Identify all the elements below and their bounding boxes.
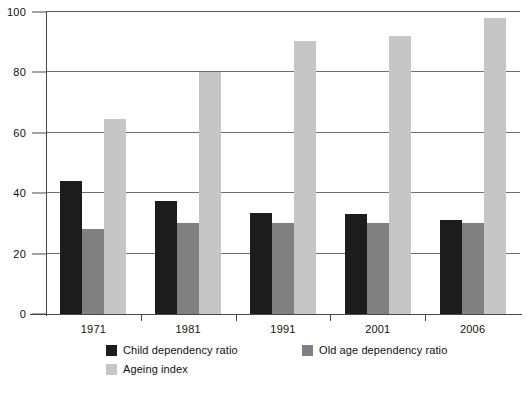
y-tick-mark-40 — [32, 193, 46, 194]
bar-2006-old-age-dependency-ratio — [462, 223, 484, 314]
y-tick-mark-60 — [32, 132, 46, 133]
x-tick-label-1981: 1981 — [176, 323, 201, 335]
bars-layer — [46, 12, 520, 314]
legend-label-child-dependency-ratio: Child dependency ratio — [123, 344, 238, 356]
bar-1991-ageing-index — [294, 41, 316, 314]
y-tick-label-20: 20 — [13, 248, 26, 260]
bar-1971-child-dependency-ratio — [60, 181, 82, 314]
legend-swatch-icon-child-dependency-ratio — [106, 345, 117, 356]
x-axis-spine — [30, 314, 522, 315]
bar-1971-ageing-index — [104, 119, 126, 314]
x-tick-mark-3 — [330, 314, 331, 321]
x-tick-label-1971: 1971 — [81, 323, 106, 335]
bar-1981-child-dependency-ratio — [155, 201, 177, 314]
legend-label-ageing-index: Ageing index — [123, 363, 188, 375]
legend-item-ageing-index[interactable]: Ageing index — [106, 363, 188, 375]
legend-item-child-dependency-ratio[interactable]: Child dependency ratio — [106, 344, 238, 356]
bar-1991-child-dependency-ratio — [250, 213, 272, 314]
bar-1981-old-age-dependency-ratio — [177, 223, 199, 314]
x-tick-mark-2 — [236, 314, 237, 321]
y-axis: 020406080100 — [0, 0, 46, 394]
bar-2006-child-dependency-ratio — [440, 220, 462, 314]
x-tick-mark-4 — [425, 314, 426, 321]
chart-legend: Child dependency ratio Old age dependenc… — [106, 344, 446, 382]
y-tick-label-40: 40 — [13, 187, 26, 199]
x-tick-mark-1 — [141, 314, 142, 321]
y-tick-label-60: 60 — [13, 127, 26, 139]
legend-row-1: Child dependency ratio Old age dependenc… — [106, 344, 446, 363]
y-tick-label-0: 0 — [20, 308, 26, 320]
legend-row-2: Ageing index — [106, 363, 446, 382]
y-tick-label-80: 80 — [13, 66, 26, 78]
bar-1971-old-age-dependency-ratio — [82, 229, 104, 314]
y-axis-spine — [46, 12, 47, 316]
bar-1991-old-age-dependency-ratio — [272, 223, 294, 314]
x-tick-label-1991: 1991 — [270, 323, 295, 335]
bar-2001-ageing-index — [389, 36, 411, 314]
legend-label-old-age-dependency-ratio: Old age dependency ratio — [319, 344, 447, 356]
y-tick-mark-80 — [32, 72, 46, 73]
y-tick-label-100: 100 — [7, 6, 26, 18]
x-tick-label-2001: 2001 — [365, 323, 390, 335]
legend-swatch-icon-ageing-index — [106, 364, 117, 375]
x-axis: 19711981199120012006 — [46, 314, 520, 342]
legend-item-old-age-dependency-ratio[interactable]: Old age dependency ratio — [302, 344, 447, 356]
y-tick-mark-20 — [32, 253, 46, 254]
legend-swatch-icon-old-age-dependency-ratio — [302, 345, 313, 356]
bar-2006-ageing-index — [484, 18, 506, 314]
bar-2001-child-dependency-ratio — [345, 214, 367, 314]
bar-1981-ageing-index — [199, 72, 221, 314]
y-tick-mark-100 — [32, 12, 46, 13]
bar-2001-old-age-dependency-ratio — [367, 223, 389, 314]
plot-area — [46, 12, 520, 314]
bar-chart-figure: 020406080100 19711981199120012006 Child … — [0, 0, 527, 394]
x-tick-label-2006: 2006 — [460, 323, 485, 335]
